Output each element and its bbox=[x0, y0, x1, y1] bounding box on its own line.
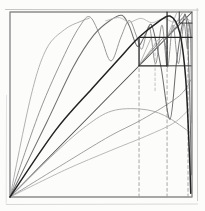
diagonal-identity-line bbox=[10, 12, 192, 197]
shallow-arc-upper bbox=[10, 80, 191, 197]
iterate-curve-steepest-ray bbox=[10, 18, 89, 197]
renormalization-diagram bbox=[0, 0, 205, 211]
shallow-arc-lowest bbox=[10, 109, 189, 197]
scan-artifact-top bbox=[5, 10, 198, 11]
figure-canvas bbox=[0, 0, 205, 211]
